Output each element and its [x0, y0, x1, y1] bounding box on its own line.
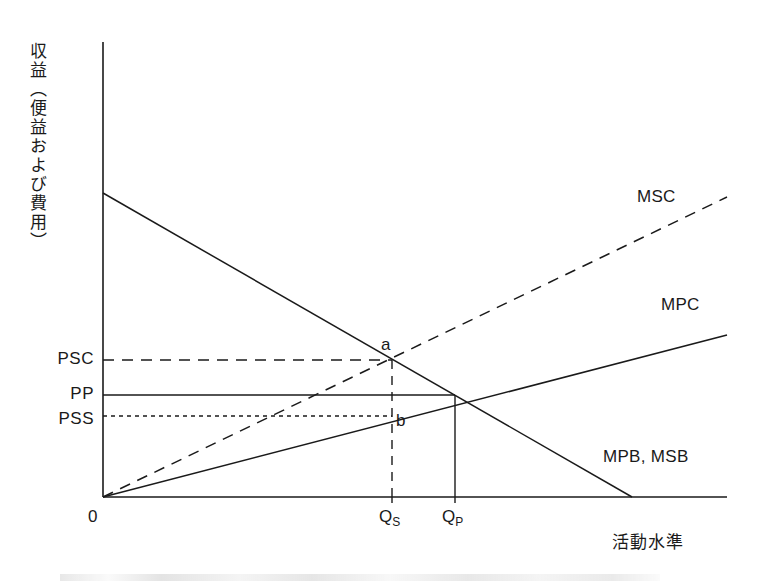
x-tick-label-qp-sub: P: [455, 515, 463, 529]
x-tick-label-qp: QP: [442, 508, 463, 528]
curve-mpc: [103, 335, 727, 497]
curve-mpb-msb: [103, 193, 632, 497]
x-axis-label: 活動水準: [612, 534, 684, 551]
x-tick-label-qs-sub: S: [392, 515, 400, 529]
externality-diagram-figure: 収益（便益および費用） 0 PSC PP PSS QS: [0, 0, 760, 586]
x-tick-label-qs: QS: [379, 508, 400, 528]
curve-label-mpc: MPC: [661, 296, 700, 313]
origin-label: 0: [88, 508, 97, 525]
curve-label-msc: MSC: [637, 188, 676, 205]
x-tick-label-qp-main: Q: [442, 507, 455, 526]
scan-artifact: [60, 574, 660, 581]
x-tick-label-qs-main: Q: [379, 507, 392, 526]
plot-canvas: [0, 0, 760, 586]
price-label-pp: PP: [36, 385, 94, 402]
point-label-a: a: [381, 336, 390, 353]
price-label-psc: PSC: [36, 350, 94, 367]
price-label-pss: PSS: [36, 410, 94, 427]
point-label-b: b: [396, 412, 405, 429]
curve-label-mpb-msb: MPB, MSB: [603, 448, 689, 465]
